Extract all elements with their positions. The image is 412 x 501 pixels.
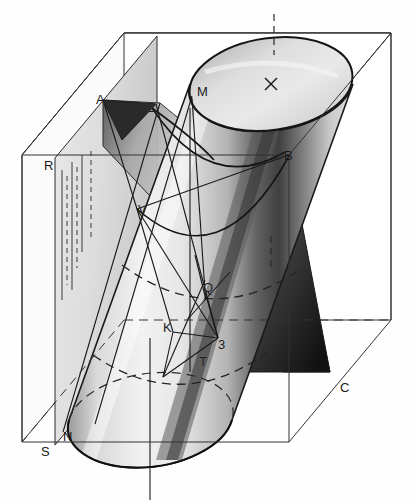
label-A: A [96,93,105,106]
label-R: R [44,159,53,172]
label-B: B [284,149,293,162]
label-T: T [199,355,207,368]
label-V: V [138,203,147,216]
label-Q: Q [203,281,213,294]
label-N: N [63,430,72,443]
label-2: 2 [148,101,155,114]
geometry-figure: A 2 M B R V Q K 3 T C N S [0,0,412,501]
figure-canvas [0,0,412,501]
label-K: K [163,321,172,334]
label-C: C [340,381,349,394]
label-3: 3 [218,338,225,351]
label-S: S [41,445,50,458]
label-M: M [197,85,208,98]
